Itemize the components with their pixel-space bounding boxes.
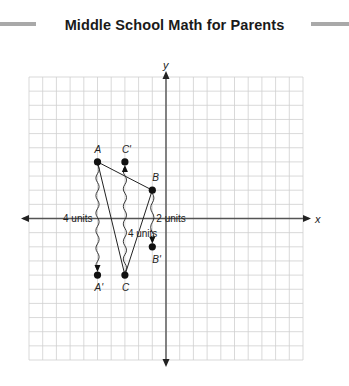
point-dot-icon [121,272,128,279]
y-axis-arrow-down-icon [163,359,170,367]
arrowhead-icon [95,265,101,272]
x-axis-arrow-left-icon [21,215,29,222]
y-axis-label: y [162,59,170,71]
point-label: A [94,144,102,155]
y-axis-arrow-up-icon [163,71,170,79]
point-label: C' [122,144,132,155]
arrowhead-icon [122,165,128,172]
point-label: B' [152,254,162,265]
translation-label: 2 units [156,213,185,224]
translation-label: 4 units [63,213,92,224]
point-dot-icon [94,158,101,165]
point-label: C [122,282,130,293]
point-dot-icon [149,243,156,250]
point-label: B [152,172,159,183]
point-dot-icon [149,187,156,194]
point-dot-icon [94,272,101,279]
coordinate-plane-diagram: x y 4 units4 units2 units ABCA'B'C' [0,0,349,386]
x-axis-label: x [314,213,321,225]
x-axis-arrow-right-icon [303,215,311,222]
point-label: A' [94,282,105,293]
arrowhead-icon [149,237,155,244]
point-dot-icon [121,158,128,165]
point-a: A [94,144,102,166]
